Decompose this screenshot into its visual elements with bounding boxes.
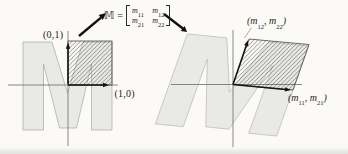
left-panel [8, 31, 118, 146]
matrix-entry-m11: m11 [132, 6, 144, 16]
matrix-expression: 𝕄 = m11 m12 m21 m22 [104, 5, 170, 26]
transform-arrow-left-icon [79, 18, 101, 36]
label-leader-line [245, 28, 252, 39]
diagram-canvas [0, 0, 348, 154]
transformed-basis-x-label: (m11, m21) [288, 92, 327, 103]
basis-y-label: (0,1) [43, 29, 63, 40]
transformed-square-hatched [233, 39, 309, 90]
matrix-equals: = [117, 10, 123, 21]
transformed-basis-y-arrowhead-icon [244, 40, 248, 46]
matrix-entry-m12: m12 [152, 6, 164, 16]
linear-transform-figure: 𝕄 = m11 m12 m21 m22 (0,1) (1,0) (m12, m2… [0, 0, 348, 154]
matrix-symbol: 𝕄 [104, 11, 114, 21]
right-panel [155, 28, 309, 148]
matrix-entries: m11 m12 m21 m22 [130, 5, 167, 26]
matrix-bracket-right [166, 5, 170, 26]
unit-square-hatched [68, 41, 112, 85]
page-bottom-shadow [0, 147, 348, 154]
basis-x-label: (1,0) [115, 88, 135, 99]
transformed-basis-y-label: (m12, m22) [247, 15, 286, 26]
